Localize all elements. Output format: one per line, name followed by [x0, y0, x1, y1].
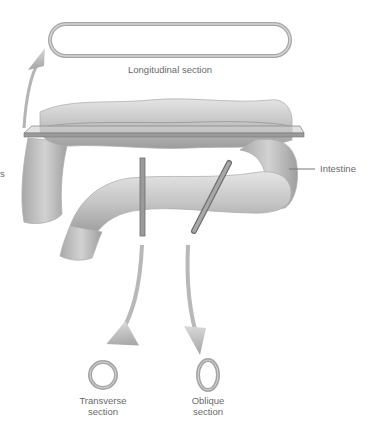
transverse-label-line2: section — [73, 406, 133, 417]
transverse-cutting-plane — [140, 158, 145, 236]
oblique-label-line2: section — [178, 406, 238, 417]
transverse-label-line1: Transverse — [73, 395, 133, 406]
oblique-label-line1: Oblique — [178, 395, 238, 406]
longitudinal-section-shape — [50, 24, 290, 56]
oblique-section-ring — [198, 360, 218, 390]
arrow-to-oblique-icon — [184, 245, 206, 355]
cut-off-left-label: s — [0, 168, 6, 179]
arrow-to-transverse-icon — [104, 245, 142, 350]
transverse-section-label: Transverse section — [73, 395, 133, 417]
oblique-section-label: Oblique section — [178, 395, 238, 417]
intestine-label: Intestine — [320, 163, 375, 174]
transverse-section-ring — [90, 362, 116, 388]
longitudinal-section-label: Longitudinal section — [110, 64, 230, 75]
